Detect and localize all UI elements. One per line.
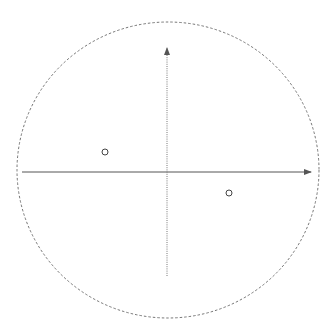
point-1 <box>102 149 108 155</box>
diagram-svg <box>0 0 334 334</box>
diagram-canvas <box>0 0 334 334</box>
point-2 <box>226 190 232 196</box>
boundary-circle <box>17 22 319 318</box>
